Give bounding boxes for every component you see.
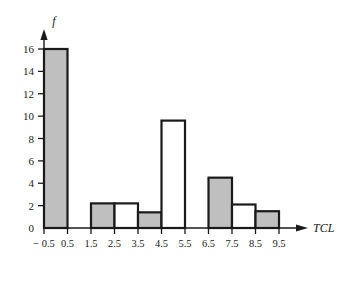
y-tick-label: 2	[29, 200, 35, 212]
x-tick-label: − 0.5	[33, 238, 55, 249]
x-tick-label: 0.5	[61, 238, 74, 249]
x-axis-arrow-icon	[296, 224, 308, 231]
x-tick-label: 7.5	[225, 238, 238, 249]
histogram-bar	[209, 178, 233, 228]
x-tick-label: 6.5	[202, 238, 215, 249]
x-tick-label: 5.5	[178, 238, 191, 249]
histogram-bar	[91, 203, 115, 228]
x-axis-label: TCL	[313, 221, 335, 235]
y-tick-label: 6	[29, 155, 35, 167]
y-tick-label: 8	[29, 133, 35, 145]
y-tick-label: 12	[23, 88, 34, 100]
y-tick-label: 10	[23, 110, 35, 122]
y-tick-label: 4	[29, 177, 35, 189]
y-axis-arrow-icon	[40, 29, 47, 40]
histogram-figure: 0246810121416 − 0.50.51.52.53.54.55.56.5…	[0, 0, 345, 282]
histogram-bar	[256, 211, 280, 228]
histogram-bar	[232, 205, 256, 228]
y-tick-label: 16	[23, 43, 35, 55]
x-tick-label: 8.5	[249, 238, 262, 249]
histogram-bar	[138, 212, 162, 228]
histogram-bar	[162, 121, 186, 228]
y-tick-label: 0	[29, 222, 35, 234]
x-tick-label: 4.5	[155, 238, 168, 249]
x-tick-label: 2.5	[108, 238, 121, 249]
y-tick-label: 14	[23, 65, 35, 77]
x-tick-label: 9.5	[272, 238, 285, 249]
histogram-bar	[44, 49, 68, 228]
histogram-plot: 0246810121416 − 0.50.51.52.53.54.55.56.5…	[0, 0, 345, 282]
bars-group	[44, 49, 279, 228]
histogram-bar	[115, 203, 139, 228]
x-tick-label: 3.5	[131, 238, 144, 249]
x-axis-ticks: − 0.50.51.52.53.54.55.56.57.58.59.5	[33, 228, 285, 249]
y-axis-label: f	[52, 14, 57, 28]
x-tick-label: 1.5	[84, 238, 97, 249]
y-axis-ticks: 0246810121416	[23, 43, 44, 234]
